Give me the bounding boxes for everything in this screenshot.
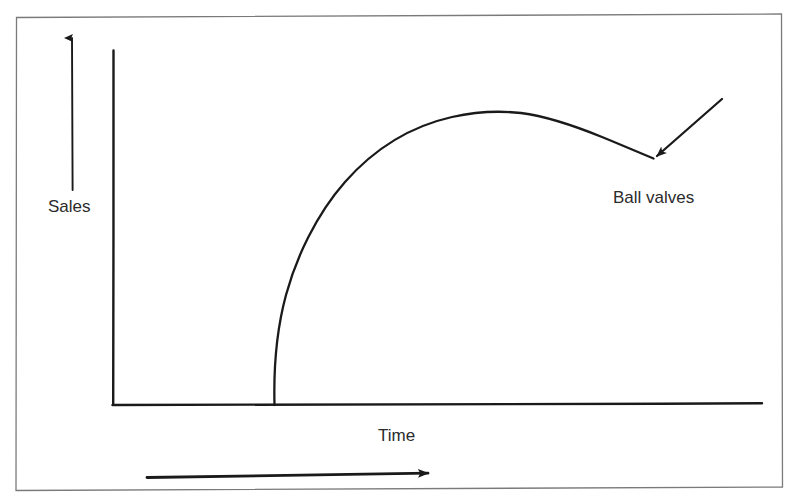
figure-container: Sales Time Ball valves [0, 0, 799, 503]
time-axis-line [113, 403, 763, 405]
sales-direction-arrow [72, 38, 73, 190]
product-life-cycle-diagram: Sales Time Ball valves [0, 0, 799, 503]
x-axis-label: Time [378, 426, 415, 445]
ball-valves-label: Ball valves [613, 188, 694, 207]
time-progression-arrow [147, 473, 428, 477]
page-frame [16, 14, 783, 491]
y-axis-label: Sales [48, 197, 91, 216]
ball-valves-annotation-arrow [657, 99, 722, 156]
life-cycle-curve [274, 112, 653, 405]
